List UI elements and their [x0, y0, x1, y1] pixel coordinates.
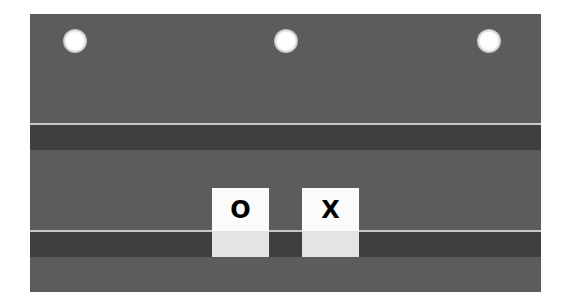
tile-o-base	[212, 231, 269, 257]
peg-right-icon[interactable]	[477, 29, 501, 53]
tile-o-face: O	[212, 188, 269, 231]
upper-rail-slot[interactable]	[30, 125, 541, 150]
peg-middle-icon[interactable]	[274, 29, 298, 53]
lower-rail-slot[interactable]	[30, 232, 541, 257]
game-board: O X	[30, 14, 541, 292]
tile-o[interactable]: O	[212, 188, 269, 257]
peg-left-icon[interactable]	[63, 29, 87, 53]
tile-x-base	[302, 231, 359, 257]
tile-x-face: X	[302, 188, 359, 231]
tile-x[interactable]: X	[302, 188, 359, 257]
